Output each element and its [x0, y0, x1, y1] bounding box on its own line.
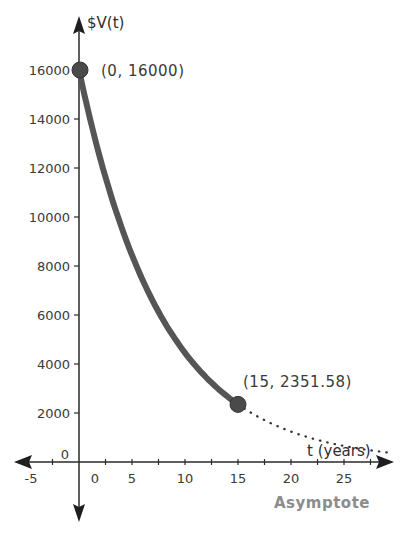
- end-point-label: (15, 2351.58): [243, 373, 352, 391]
- y-tick-label: 4000: [37, 357, 70, 372]
- y-axis-ticks: 0200040006000800010000120001400016000: [29, 63, 79, 462]
- y-tick-label: 10000: [29, 210, 70, 225]
- x-tick-label: 5: [128, 471, 136, 486]
- x-axis-title: t (years): [307, 442, 371, 460]
- y-tick-label: 2000: [37, 406, 70, 421]
- x-tick-label: 20: [283, 471, 300, 486]
- asymptote-annotation: Asymptote: [274, 494, 370, 512]
- y-tick-label: 12000: [29, 161, 70, 176]
- exponential-decay-chart: -50510152025 020004000600080001000012000…: [0, 0, 411, 534]
- y-tick-label: 6000: [37, 308, 70, 323]
- value-decay-curve: [79, 70, 238, 404]
- y-tick-label: 14000: [29, 112, 70, 127]
- x-axis-ticks: -50510152025: [25, 459, 371, 486]
- x-tick-label: 25: [336, 471, 353, 486]
- y-tick-label: 8000: [37, 259, 70, 274]
- x-tick-label: 10: [177, 471, 194, 486]
- x-tick-label: 0: [91, 471, 99, 486]
- start-point-label: (0, 16000): [101, 62, 185, 80]
- end-point-marker: [230, 396, 246, 412]
- start-point-marker: [72, 62, 88, 78]
- y-tick-label: 16000: [29, 63, 70, 78]
- x-tick-label: -5: [25, 471, 38, 486]
- y-axis-title: $V(t): [87, 14, 124, 32]
- x-tick-label: 15: [230, 471, 247, 486]
- y-tick-label: 0: [61, 447, 69, 462]
